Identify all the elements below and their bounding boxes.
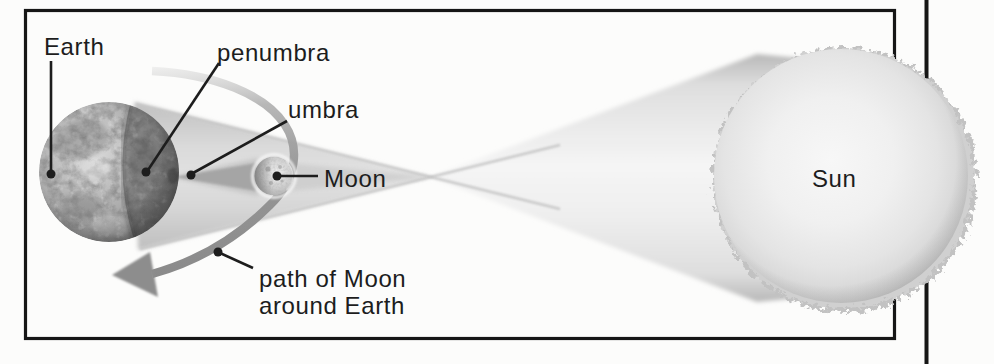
penumbra-label: penumbra: [217, 39, 330, 66]
moon-path-label-line1: path of Moon: [259, 265, 406, 292]
umbra-label: umbra: [288, 96, 359, 123]
moon-leader-dot: [273, 172, 282, 181]
sun-label: Sun: [812, 165, 857, 192]
umbra-leader-dot: [187, 171, 196, 180]
moon-path-leader-dot: [214, 248, 223, 257]
moon-label: Moon: [324, 165, 386, 192]
moon-path-label-line2: around Earth: [259, 292, 405, 319]
earth-rim-shading: [39, 102, 179, 242]
penumbra-leader-dot: [142, 168, 151, 177]
eclipse-diagram: Earth penumbra umbra Moon Sun path of Mo…: [0, 0, 994, 364]
earth-label: Earth: [44, 33, 104, 60]
earth-leader-dot: [47, 170, 56, 179]
